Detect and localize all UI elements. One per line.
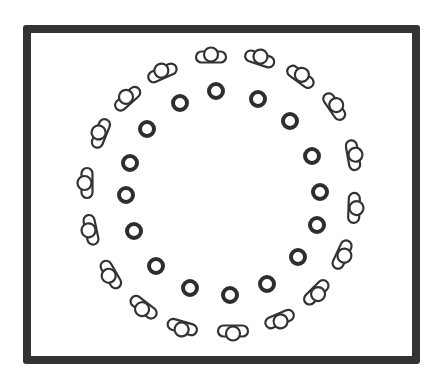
ion-ring-circle (119, 188, 133, 202)
ion-ring-circle (291, 250, 305, 264)
molecule-center-atom (347, 147, 363, 163)
ion-ring-circle (223, 288, 237, 302)
ion-ring-circle (183, 281, 197, 295)
ion-ring-circle (209, 84, 223, 98)
ion-solvation-diagram (0, 0, 440, 383)
inner-ion-ring (119, 84, 327, 302)
molecule (95, 259, 123, 292)
molecule (348, 193, 364, 224)
ion-ring-circle (123, 156, 137, 170)
molecule (79, 214, 100, 246)
ion-ring-circle (149, 259, 163, 273)
molecule (110, 82, 142, 113)
ion-ring-circle (251, 92, 265, 106)
molecule-center-atom (226, 327, 240, 341)
molecule (86, 116, 111, 149)
molecule (78, 168, 93, 198)
molecule (285, 60, 318, 90)
molecule (244, 45, 277, 69)
molecule (302, 278, 334, 310)
ion-ring-circle (310, 218, 324, 232)
molecule (264, 308, 297, 334)
ion-ring-circle (127, 224, 141, 238)
ion-ring-circle (140, 122, 154, 136)
molecule (345, 139, 365, 171)
ion-ring-circle (173, 96, 187, 110)
ion-ring-circle (305, 149, 319, 163)
molecule (218, 326, 248, 341)
molecule (165, 318, 198, 341)
molecule (126, 294, 159, 324)
molecule (145, 58, 179, 84)
molecule (331, 239, 357, 273)
molecule-center-atom (204, 48, 218, 62)
ion-ring-circle (283, 114, 297, 128)
ion-ring-circle (313, 185, 327, 199)
molecule (321, 89, 350, 122)
ion-ring-circle (260, 277, 274, 291)
molecule-center-atom (78, 176, 92, 190)
molecule (196, 48, 226, 63)
molecule-center-atom (349, 201, 363, 215)
